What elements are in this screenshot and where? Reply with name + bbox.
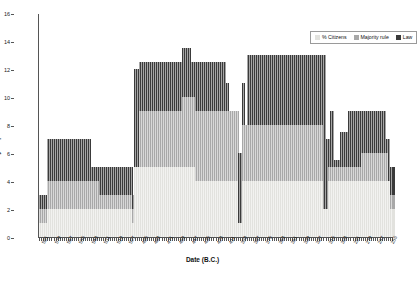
x-tick-mark [137, 238, 138, 241]
y-tick-mark [11, 210, 14, 211]
y-tick-label: 0 [0, 235, 10, 241]
legend-label-majority-rule: Majority rule [361, 34, 389, 41]
x-tick-mark [186, 238, 187, 241]
y-tick-mark [11, 98, 14, 99]
x-tick-mark [261, 238, 262, 241]
x-tick-mark [99, 238, 100, 241]
x-tick-mark [199, 238, 200, 241]
y-tick-mark [11, 126, 14, 127]
y-tick-label: 2 [0, 207, 10, 213]
y-tick-mark [11, 14, 14, 15]
legend-swatch-majority-rule [354, 35, 359, 40]
x-tick-mark [336, 238, 337, 241]
bar-segment-citizens [392, 209, 395, 237]
x-tick-mark [124, 238, 125, 241]
x-tick-mark [174, 238, 175, 241]
y-tick-label: 10 [0, 95, 10, 101]
x-tick-mark [286, 238, 287, 241]
x-tick-mark [62, 238, 63, 241]
y-tick-label: 6 [0, 151, 10, 157]
y-tick-mark [11, 238, 14, 239]
bar-segment-law [392, 167, 395, 195]
y-tick-label: 16 [0, 11, 10, 17]
plot-area: % Citizens Majority rule Law [38, 14, 393, 238]
x-tick-mark [211, 238, 212, 241]
x-tick-mark [299, 238, 300, 241]
x-tick-mark [49, 238, 50, 241]
x-tick-mark [249, 238, 250, 241]
y-tick-mark [11, 42, 14, 43]
x-tick-mark [361, 238, 362, 241]
x-tick-mark [74, 238, 75, 241]
bar [392, 13, 395, 237]
legend-item-law: Law [396, 34, 413, 41]
bar-segment-majority-rule [392, 195, 395, 209]
y-tick-mark [11, 154, 14, 155]
x-tick-mark [373, 238, 374, 241]
x-tick-mark [323, 238, 324, 241]
legend-item-majority-rule: Majority rule [354, 34, 389, 41]
y-tick-label: 14 [0, 39, 10, 45]
y-tick-label: 8 [0, 123, 10, 129]
x-tick-mark [348, 238, 349, 241]
legend-swatch-law [396, 35, 401, 40]
x-tick-mark [149, 238, 150, 241]
legend-label-law: Law [403, 34, 413, 41]
y-tick-mark [11, 70, 14, 71]
x-tick-mark [274, 238, 275, 241]
legend-item-citizens: % Citizens [315, 34, 347, 41]
y-tick-mark [11, 182, 14, 183]
legend-swatch-citizens [315, 35, 320, 40]
legend-label-citizens: % Citizens [322, 34, 347, 41]
y-tick-label: 12 [0, 67, 10, 73]
bars-layer [39, 14, 393, 237]
legend: % Citizens Majority rule Law [310, 31, 417, 44]
x-tick-mark [224, 238, 225, 241]
x-tick-mark [87, 238, 88, 241]
x-tick-mark [162, 238, 163, 241]
y-tick-label: 4 [0, 179, 10, 185]
x-tick-mark [311, 238, 312, 241]
x-axis-label: Date (B.C.) [0, 256, 405, 263]
x-tick-mark [386, 238, 387, 241]
x-tick-mark [112, 238, 113, 241]
x-tick-mark [236, 238, 237, 241]
